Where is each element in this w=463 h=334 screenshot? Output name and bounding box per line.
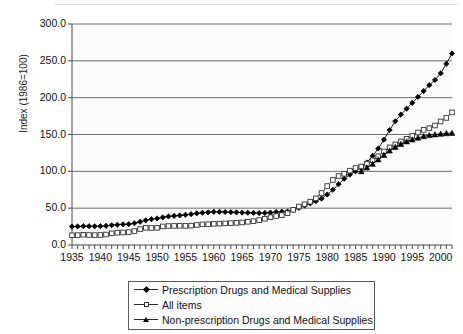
legend-marker-filled-diamond-icon	[133, 283, 159, 296]
chart-legend: Prescription Drugs and Medical SuppliesA…	[128, 281, 375, 330]
legend-item-label: Prescription Drugs and Medical Supplies	[159, 284, 351, 296]
legend-item[interactable]: All items	[129, 297, 374, 312]
legend-marker-open-square-icon	[133, 298, 159, 311]
legend-marker-filled-triangle-icon	[133, 313, 159, 326]
legend-item-label: Non-prescription Drugs and Medical Suppl…	[159, 314, 373, 326]
legend-item[interactable]: Prescription Drugs and Medical Supplies	[129, 282, 374, 297]
chart-container: Index (1986=100) 0.050.0100.0150.0200.02…	[0, 0, 463, 334]
legend-item[interactable]: Non-prescription Drugs and Medical Suppl…	[129, 312, 374, 327]
legend-item-label: All items	[159, 299, 202, 311]
